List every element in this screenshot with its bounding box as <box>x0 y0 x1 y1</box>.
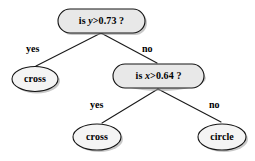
node-root-suffix: ? <box>117 15 125 26</box>
node-root-prefix: is <box>79 15 88 26</box>
node-split2-prefix: is <box>136 70 145 81</box>
edge-root-yes <box>36 33 101 66</box>
edge-split2-yes <box>102 89 158 123</box>
node-split2-label: is x>0.64 ? <box>113 71 204 81</box>
node-root-label: is y>0.73 ? <box>58 16 145 26</box>
edge-label-split2-no: no <box>209 100 220 110</box>
edge-label-root-yes: yes <box>26 44 39 54</box>
node-root-condition: >0.73 <box>93 15 117 26</box>
node-leaf-right-label: circle <box>198 132 246 142</box>
decision-tree-diagram: is y>0.73 ? cross is x>0.64 ? cross circ… <box>0 0 255 161</box>
node-leaf-mid-label: cross <box>73 132 121 142</box>
edge-label-root-no: no <box>142 44 153 54</box>
node-leaf-left-label: cross <box>12 74 58 84</box>
edge-label-split2-yes: yes <box>90 100 103 110</box>
node-split2-condition: >0.64 <box>150 70 174 81</box>
node-split2-suffix: ? <box>174 70 182 81</box>
